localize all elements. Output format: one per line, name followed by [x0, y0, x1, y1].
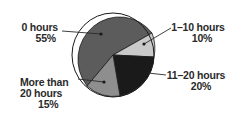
- label-more-than-20-hours-pct: 15%: [20, 99, 80, 110]
- label-more-than-20-hours: More than 20 hours 15%: [20, 77, 80, 110]
- label-1-10-hours-pct: 10%: [170, 33, 226, 44]
- label-0-hours: 0 hours 55%: [14, 22, 58, 44]
- label-1-10-hours: 1–10 hours 10%: [170, 22, 226, 44]
- label-11-20-hours: 11–20 hours 20%: [166, 70, 226, 92]
- label-0-hours-pct: 55%: [14, 33, 56, 44]
- label-11-20-hours-pct: 20%: [166, 81, 226, 92]
